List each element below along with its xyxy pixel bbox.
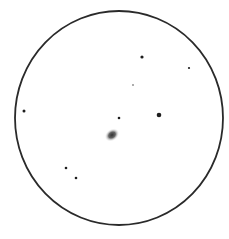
star-icon — [23, 110, 26, 113]
star-field — [23, 55, 191, 179]
star-icon — [118, 117, 121, 120]
star-icon — [157, 113, 162, 118]
star-icon — [75, 177, 78, 180]
galaxy-smudge — [102, 125, 122, 144]
star-icon — [140, 55, 143, 58]
star-icon — [65, 167, 68, 170]
eyepiece-sketch — [0, 0, 229, 239]
star-icon — [132, 84, 133, 85]
star-icon — [188, 67, 190, 69]
